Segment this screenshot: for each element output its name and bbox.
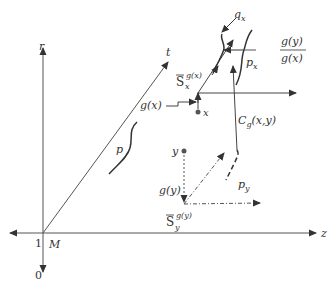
S-y-label: S y g(y) (166, 211, 192, 232)
svg-text:y: y (174, 223, 180, 232)
S-x-label: S x g(x) (176, 71, 202, 91)
z-axis-label: z (320, 227, 327, 240)
p-y-label: py (238, 178, 250, 193)
g-x-label: g(x) (140, 99, 162, 112)
curves-upper (212, 18, 256, 85)
diagram-canvas: r t z 1 M 0 g(x) x S x g(x) qx px g(y) g… (0, 0, 334, 290)
origin-value: 1 (35, 237, 42, 250)
C-g-label: Cg(x,y) (238, 114, 276, 129)
svg-text:g(x): g(x) (281, 52, 303, 65)
g-y-label: g(y) (159, 184, 181, 197)
p-label: p (116, 143, 123, 156)
q-x-label: qx (234, 8, 246, 23)
svg-text:g(y): g(y) (281, 35, 303, 48)
p-y-curve (226, 150, 238, 180)
t-axis (43, 62, 168, 233)
x-point-dot (196, 110, 201, 115)
down-value: 0 (35, 269, 42, 282)
ratio-label: g(y) g(x) (280, 35, 306, 65)
g-x-arrow (166, 102, 196, 106)
frame-S-y (182, 149, 261, 205)
y-point-label: y (171, 145, 179, 158)
r-axis-label: r (39, 40, 45, 53)
x-point-label: x (203, 107, 209, 118)
svg-text:x: x (185, 82, 190, 91)
svg-text:S: S (166, 215, 174, 229)
p-x-label: px (246, 56, 258, 71)
t-axis-label: t (166, 46, 171, 59)
origin-label: M (48, 238, 61, 251)
svg-text:g(y): g(y) (176, 211, 192, 220)
svg-text:g(x): g(x) (186, 71, 202, 80)
svg-text:S: S (176, 75, 184, 89)
C-g-line (233, 66, 237, 150)
